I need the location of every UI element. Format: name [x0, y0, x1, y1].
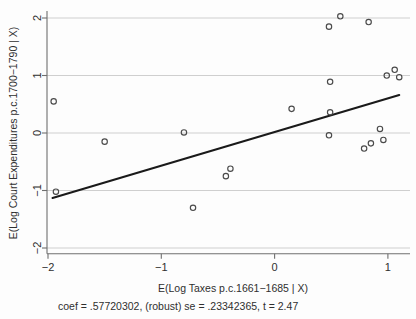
- data-point-markers: [51, 14, 402, 211]
- data-point: [102, 139, 107, 144]
- y-axis-label: E(Log Court Expenditures p.c.1700−1790 |…: [7, 27, 19, 240]
- data-point: [366, 19, 371, 24]
- data-point: [53, 189, 58, 194]
- data-point: [327, 79, 332, 84]
- y-tick-label-0: 0: [31, 130, 43, 136]
- regression-statistics-caption: coef = .57720302, (robust) se = .2334236…: [58, 300, 298, 312]
- y-tick-label-2: 2: [31, 15, 43, 21]
- data-point: [327, 110, 332, 115]
- added-variable-plot-figure: −2−101 −2−1012 E(Log Taxes p.c.1661−1685…: [0, 0, 416, 319]
- data-point: [51, 99, 56, 104]
- data-point: [392, 67, 397, 72]
- data-point: [181, 130, 186, 135]
- data-point: [228, 166, 233, 171]
- x-tick-marks: [48, 254, 388, 259]
- x-axis-label: E(Log Taxes p.c.1661−1685 | X): [158, 282, 308, 294]
- plot-spines: [47, 11, 410, 254]
- y-tick-label--1: −1: [31, 184, 43, 197]
- y-tick-labels: −2−1012: [31, 15, 43, 254]
- regression-fit-line: [53, 95, 400, 198]
- data-point: [326, 24, 331, 29]
- y-tick-label-1: 1: [31, 72, 43, 78]
- x-tick-label--1: −1: [155, 261, 168, 273]
- data-point: [381, 137, 386, 142]
- x-tick-labels: −2−101: [42, 261, 391, 273]
- x-tick-label-0: 0: [272, 261, 278, 273]
- data-point: [377, 126, 382, 131]
- data-point: [190, 205, 195, 210]
- data-point: [289, 106, 294, 111]
- x-tick-label--2: −2: [42, 261, 55, 273]
- data-point: [223, 173, 228, 178]
- x-tick-label-1: 1: [385, 261, 391, 273]
- scatter-plot-canvas: −2−101 −2−1012 E(Log Taxes p.c.1661−1685…: [0, 0, 416, 319]
- data-point: [361, 146, 366, 151]
- y-tick-label--2: −2: [31, 242, 43, 255]
- data-point: [368, 141, 373, 146]
- gridlines: [47, 18, 410, 248]
- regression-fit-line-group: [53, 95, 400, 198]
